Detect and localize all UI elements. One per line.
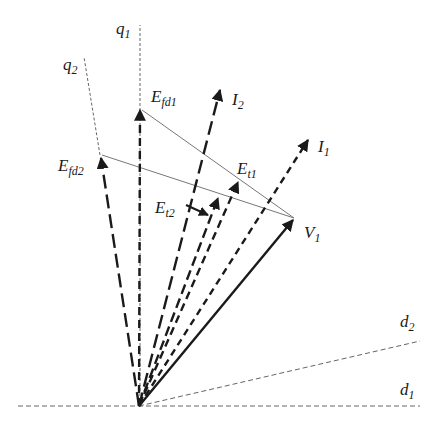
d2-label: d2 xyxy=(400,312,415,334)
v1-phasor xyxy=(139,220,293,406)
q1-label: q1 xyxy=(116,19,131,41)
efd2-phasor xyxy=(101,158,139,406)
v1-label: V1 xyxy=(304,223,320,245)
q2-label: q2 xyxy=(63,55,78,77)
d2-axis xyxy=(139,341,420,406)
efd1-phasor xyxy=(139,110,140,406)
et2-label: Et2 xyxy=(154,198,175,220)
i1-phasor xyxy=(139,140,308,406)
et1-label: Et1 xyxy=(236,159,257,181)
et1-phasor xyxy=(139,182,238,406)
i2-label: I2 xyxy=(231,90,244,112)
efd2-label: Efd2 xyxy=(57,156,84,178)
d1-label: d1 xyxy=(400,380,415,402)
q2-axis xyxy=(84,57,100,155)
efd1-label: Efd1 xyxy=(150,87,177,109)
phasor-diagram: q1 q2 d2 d1 Efd1 Efd2 I2 I1 Et1 Et2 V1 xyxy=(0,0,442,431)
i1-label: I1 xyxy=(317,137,330,159)
